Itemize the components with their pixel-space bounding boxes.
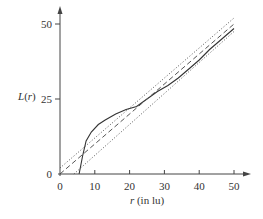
- series-solid-line: [79, 29, 234, 175]
- series-dotted-line: [74, 32, 234, 175]
- x-tick-label: 0: [57, 180, 63, 192]
- y-ticks: 02550: [41, 18, 60, 180]
- x-tick-label: 20: [124, 180, 136, 192]
- y-axis-label: L(r): [17, 90, 36, 103]
- x-tick-label: 10: [89, 180, 101, 192]
- y-axis-arrow-icon: [58, 6, 63, 14]
- x-tick-label: 40: [194, 180, 206, 192]
- x-axis-arrow-icon: [243, 172, 251, 177]
- plot-area: [60, 18, 234, 174]
- y-tick-label: 25: [41, 93, 53, 105]
- y-tick-label: 0: [47, 168, 53, 180]
- x-tick-label: 30: [159, 180, 171, 192]
- x-axis-label: r (in lu): [130, 194, 165, 207]
- x-ticks: 01020304050: [57, 170, 240, 192]
- series-dotted-line: [60, 18, 234, 168]
- series-dashed-line: [60, 24, 234, 174]
- x-tick-label: 50: [229, 180, 241, 192]
- chart: 01020304050 02550 r (in lu) L(r): [0, 0, 263, 219]
- y-tick-label: 50: [41, 18, 53, 30]
